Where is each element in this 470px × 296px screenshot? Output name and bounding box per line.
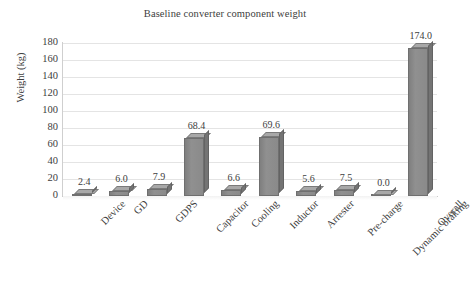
bar-front-face — [296, 191, 316, 196]
bar-value-label: 0.0 — [377, 177, 390, 188]
bar-front-face — [221, 190, 241, 196]
x-axis-category-label: GD — [132, 198, 151, 217]
bar — [371, 195, 391, 197]
bar-value-label: 7.9 — [153, 171, 166, 182]
bar-value-label: 69.6 — [262, 119, 280, 130]
x-axis-category-label: Arrester — [324, 198, 356, 230]
bar — [72, 194, 92, 196]
y-axis-tick-labels: 020406080100120140160180 — [0, 43, 58, 196]
bar-value-label: 174.0 — [410, 30, 433, 41]
bar-front-face — [72, 194, 92, 196]
bar — [259, 137, 279, 196]
bar-value-label: 6.6 — [228, 172, 241, 183]
bar-side-face — [354, 182, 359, 193]
bar-series: 2.46.07.968.46.669.65.67.50.0174.0 — [63, 43, 437, 196]
bar — [296, 191, 316, 196]
y-axis-tick-label: 80 — [6, 121, 58, 132]
bar-side-face — [428, 41, 433, 194]
y-axis-tick-label: 100 — [6, 104, 58, 115]
bar-side-face — [129, 183, 134, 193]
bar-front-face — [259, 137, 279, 196]
y-axis-tick-label: 40 — [6, 155, 58, 166]
bar-value-label: 5.6 — [302, 173, 315, 184]
bar-front-face — [334, 190, 354, 196]
x-axis-category-label: Pre-charge — [365, 198, 405, 238]
y-axis-tick-label: 120 — [6, 87, 58, 98]
chart-title: Baseline converter component weight — [0, 8, 450, 19]
y-axis-tick-label: 20 — [6, 172, 58, 183]
bar — [147, 189, 167, 196]
y-axis-tick-label: 60 — [6, 138, 58, 149]
x-axis-category-label: Capacitor — [214, 198, 251, 235]
bar-top-face — [74, 189, 99, 194]
y-axis-tick-label: 160 — [6, 53, 58, 64]
y-axis-tick-label: 180 — [6, 36, 58, 47]
bar-value-label: 2.4 — [78, 176, 91, 187]
bar-front-face — [109, 191, 129, 196]
bar-side-face — [204, 130, 209, 193]
bar-side-face — [279, 129, 284, 193]
bar — [109, 191, 129, 196]
bar — [184, 138, 204, 196]
bar — [221, 190, 241, 196]
x-axis-category-label: Inductor — [287, 198, 320, 231]
y-axis-tick-label: 140 — [6, 70, 58, 81]
bar-value-label: 7.5 — [340, 172, 353, 183]
bar-front-face — [408, 48, 428, 196]
x-axis-category-labels: DeviceGDGDPSCapacitorCoolingInductorArre… — [0, 198, 450, 294]
bar-front-face — [184, 138, 204, 196]
bar-front-face — [147, 189, 167, 196]
bar — [408, 48, 428, 196]
x-axis-category-label: Device — [98, 198, 127, 227]
x-axis-category-label: Cooling — [249, 198, 281, 230]
x-axis-category-label: GDPS — [172, 198, 199, 225]
bar-value-label: 6.0 — [115, 173, 128, 184]
bar-value-label: 68.4 — [188, 120, 206, 131]
bar — [334, 190, 354, 196]
